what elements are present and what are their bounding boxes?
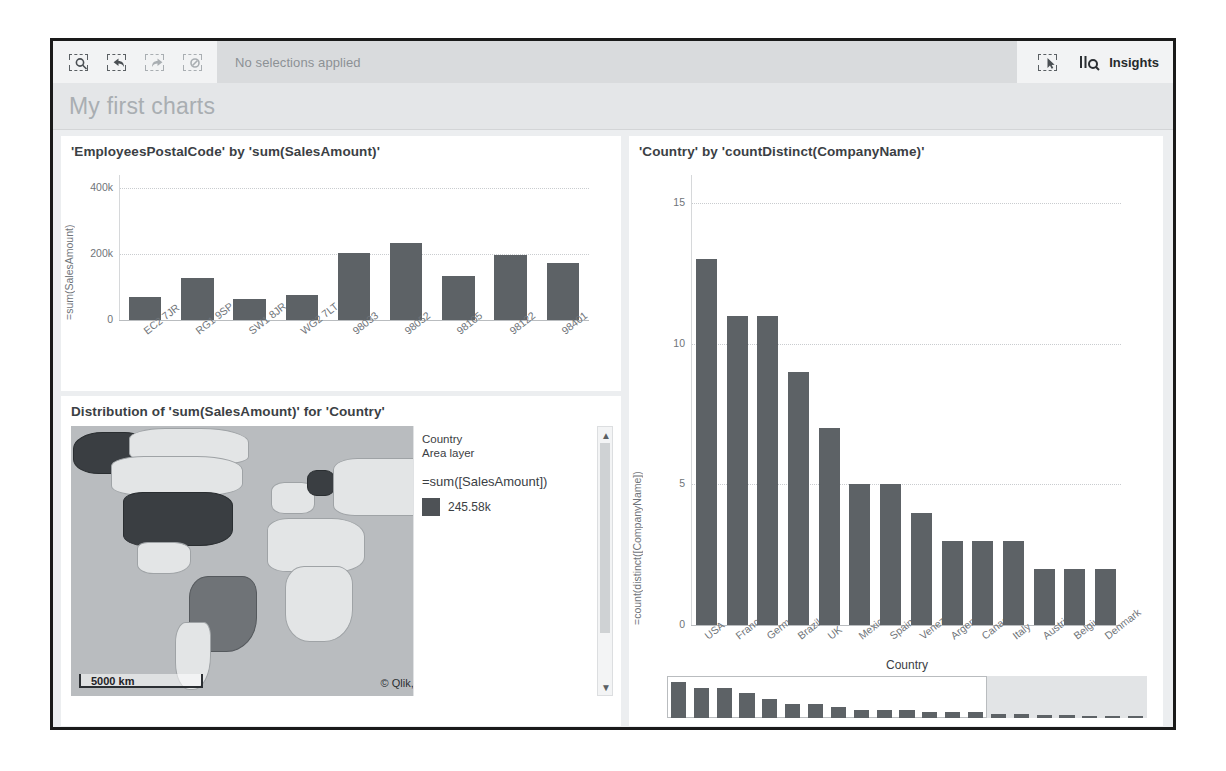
- chart-plot-country[interactable]: =count(distinct([CompanyName])051015USAF…: [629, 163, 1163, 703]
- bar-Venezuela[interactable]: [911, 513, 932, 626]
- plot2-y-tick: 15: [645, 196, 685, 208]
- minichart-label: Country: [667, 658, 1147, 672]
- plot1-y-tick: 0: [73, 313, 113, 325]
- qlik-app-window: No selections applied: [50, 38, 1176, 730]
- selection-search-button[interactable]: [59, 41, 97, 83]
- selection-tools-group: [53, 41, 217, 83]
- map-area-africa-north: [267, 518, 365, 572]
- bar-98033[interactable]: [338, 253, 370, 320]
- minichart-bar[interactable]: [739, 693, 754, 718]
- map-legend-max-value: 245.58k: [448, 500, 491, 514]
- minichart-bar[interactable]: [922, 712, 937, 718]
- plot2-gridline: [691, 344, 1121, 345]
- sheet-header: My first charts: [53, 83, 1173, 130]
- map-legend-layer: Area layer: [422, 446, 553, 460]
- chart-scroll-minichart[interactable]: Country: [667, 658, 1147, 718]
- minichart-bar[interactable]: [968, 712, 983, 718]
- chart-card-country[interactable]: 'Country' by 'countDistinct(CompanyName)…: [629, 136, 1163, 726]
- bar-98052[interactable]: [390, 243, 422, 320]
- plot2-y-tick: 0: [645, 618, 685, 630]
- minichart-bar[interactable]: [991, 714, 1006, 718]
- chevron-down-icon[interactable]: ▼: [598, 679, 614, 695]
- chevron-up-icon[interactable]: ▲: [598, 427, 614, 443]
- minichart-bar[interactable]: [1037, 715, 1052, 718]
- map-area-canada: [111, 456, 243, 496]
- plot1-y-tick: 200k: [73, 247, 113, 259]
- selection-undo-button[interactable]: [97, 41, 135, 83]
- bar-UK[interactable]: [819, 428, 840, 625]
- bar-Brazil[interactable]: [788, 372, 809, 625]
- minichart-bar[interactable]: [945, 712, 960, 718]
- chart-title-postalcode: 'EmployeesPostalCode' by 'sum(SalesAmoun…: [61, 136, 621, 163]
- map-attribution-prefix: © Qlik,: [381, 677, 414, 689]
- minichart-bar[interactable]: [1059, 715, 1074, 718]
- plot2-y-tick: 5: [645, 477, 685, 489]
- map-legend-scrollbar[interactable]: ▲ ▼: [597, 426, 613, 696]
- sheet-body: 'EmployeesPostalCode' by 'sum(SalesAmoun…: [53, 130, 1173, 730]
- minichart-bar[interactable]: [1105, 716, 1120, 718]
- minichart-bar[interactable]: [877, 710, 892, 718]
- selection-undo-icon: [107, 54, 126, 71]
- bar-Austria[interactable]: [1034, 569, 1055, 625]
- minichart-window[interactable]: [667, 676, 987, 718]
- bar-USA[interactable]: [696, 259, 717, 625]
- plot2-y-tick: 10: [645, 337, 685, 349]
- bar-Germany[interactable]: [757, 316, 778, 625]
- selection-redo-icon: [145, 54, 164, 71]
- minichart-bar[interactable]: [1014, 714, 1029, 718]
- minichart-bar[interactable]: [1082, 716, 1097, 718]
- plot1-y-tick: 400k: [73, 181, 113, 193]
- insights-label: Insights: [1109, 55, 1159, 70]
- map-card-country[interactable]: Distribution of 'sum(SalesAmount)' for '…: [61, 396, 621, 726]
- selection-status-text: No selections applied: [235, 55, 361, 70]
- minichart-bar[interactable]: [694, 688, 709, 718]
- map-area-mexico: [137, 542, 191, 574]
- minichart-bar[interactable]: [899, 710, 914, 718]
- bar-Canada[interactable]: [972, 541, 993, 625]
- selection-redo-button[interactable]: [135, 41, 173, 83]
- selection-clear-icon: [183, 54, 202, 71]
- minichart-bar[interactable]: [717, 688, 732, 718]
- map-area-africa-south: [285, 566, 353, 642]
- map-scale-label: 5000 km: [91, 675, 134, 687]
- selection-toolbar: No selections applied: [53, 41, 1173, 83]
- bar-Argentina[interactable]: [942, 541, 963, 625]
- map-legend-measure: =sum([SalesAmount]): [422, 474, 553, 490]
- minichart-bar[interactable]: [808, 704, 823, 718]
- bar-Denmark[interactable]: [1095, 569, 1116, 625]
- minichart-bar[interactable]: [1128, 716, 1143, 718]
- bar-Italy[interactable]: [1003, 541, 1024, 625]
- chart-title-country: 'Country' by 'countDistinct(CompanyName)…: [629, 136, 1163, 163]
- map-legend-swatch-row: 245.58k: [422, 498, 553, 516]
- map-legend-scroll-thumb[interactable]: [600, 443, 610, 633]
- map-legend: Country Area layer =sum([SalesAmount]) 2…: [413, 426, 561, 696]
- minichart-plot[interactable]: [667, 676, 1147, 718]
- bar-Belgium[interactable]: [1064, 569, 1085, 625]
- chart-plot-postalcode[interactable]: =sum(SalesAmount)0200k400kEC2 7JRRG1 9SP…: [61, 163, 621, 393]
- insights-bar-search-icon: [1079, 54, 1101, 71]
- minichart-bar[interactable]: [671, 682, 686, 718]
- minichart-bar[interactable]: [854, 710, 869, 718]
- map-legend-dimension: Country: [422, 432, 553, 446]
- selection-tool-button[interactable]: [1027, 41, 1067, 83]
- selection-tool-icon: [1038, 54, 1057, 71]
- selection-clear-button[interactable]: [173, 41, 211, 83]
- plot1-gridline: [119, 188, 589, 189]
- chart-card-postalcode[interactable]: 'EmployeesPostalCode' by 'sum(SalesAmoun…: [61, 136, 621, 391]
- plot2-y-axis: [691, 175, 692, 625]
- plot2-gridline: [691, 484, 1121, 485]
- map-legend-color-swatch: [422, 498, 440, 516]
- minichart-bar[interactable]: [785, 704, 800, 718]
- map-area-usa: [123, 492, 233, 546]
- minichart-bar[interactable]: [831, 707, 846, 718]
- minichart-bar[interactable]: [762, 699, 777, 718]
- bar-Spain[interactable]: [880, 484, 901, 625]
- insights-button[interactable]: Insights: [1079, 54, 1159, 71]
- bar-France[interactable]: [727, 316, 748, 625]
- bar-98401[interactable]: [547, 263, 579, 320]
- screenshot-root: No selections applied: [0, 0, 1226, 771]
- bar-98122[interactable]: [494, 255, 526, 320]
- plot1-y-axis: [119, 175, 120, 320]
- sheet-title: My first charts: [69, 93, 215, 120]
- bar-Mexico[interactable]: [849, 484, 870, 625]
